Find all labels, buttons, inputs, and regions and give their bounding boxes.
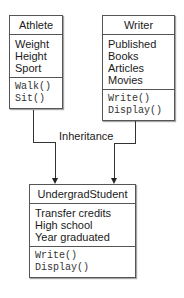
athlete-method: Sit() — [15, 93, 57, 105]
writer-attribute: Articles — [108, 62, 169, 74]
writer-attributes: Published Books Articles Movies — [103, 35, 174, 90]
writer-attribute: Published — [108, 38, 169, 50]
athlete-connector-vertical-1 — [33, 110, 34, 142]
writer-attribute: Books — [108, 50, 169, 62]
athlete-class-box: Athlete Weight Height Sport Walk() Sit() — [9, 15, 63, 109]
undergrad-method: Display() — [35, 262, 130, 274]
athlete-attribute: Height — [15, 50, 57, 62]
writer-connector-horizontal — [114, 143, 136, 144]
undergrad-attribute: High school — [35, 219, 130, 231]
writer-connector-vertical-1 — [135, 121, 136, 143]
athlete-methods: Walk() Sit() — [10, 78, 62, 108]
athlete-connector-horizontal — [33, 142, 56, 143]
undergrad-methods: Write() Display() — [30, 247, 135, 277]
athlete-class-name: Athlete — [10, 16, 62, 35]
writer-method: Display() — [108, 105, 169, 117]
athlete-attributes: Weight Height Sport — [10, 35, 62, 78]
athlete-connector-vertical-2 — [55, 142, 56, 178]
writer-class-box: Writer Published Books Articles Movies W… — [102, 15, 175, 121]
undergrad-class-name: UndergradStudent — [30, 185, 135, 204]
writer-attribute: Movies — [108, 74, 169, 86]
undergrad-class-box: UndergradStudent Transfer credits High s… — [29, 184, 136, 278]
undergrad-attributes: Transfer credits High school Year gradua… — [30, 204, 135, 247]
writer-class-name: Writer — [103, 16, 174, 35]
writer-methods: Write() Display() — [103, 90, 174, 120]
writer-connector-vertical-2 — [114, 143, 115, 178]
athlete-method: Walk() — [15, 81, 57, 93]
inheritance-label: Inheritance — [59, 130, 113, 142]
undergrad-attribute: Transfer credits — [35, 207, 130, 219]
athlete-attribute: Weight — [15, 38, 57, 50]
undergrad-attribute: Year graduated — [35, 231, 130, 243]
undergrad-method: Write() — [35, 250, 130, 262]
athlete-attribute: Sport — [15, 62, 57, 74]
writer-method: Write() — [108, 93, 169, 105]
